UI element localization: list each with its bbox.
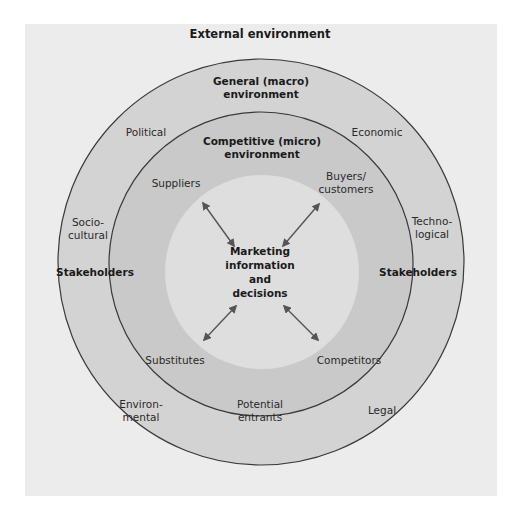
force-buyers-customers: Buyers/ customers	[319, 170, 374, 196]
force-economic: Economic	[352, 126, 403, 139]
micro-environment-title: Competitive (micro) environment	[203, 135, 321, 161]
stakeholders-left: Stakeholders	[56, 266, 134, 279]
stakeholders-right: Stakeholders	[379, 266, 457, 279]
force-competitors: Competitors	[317, 354, 381, 367]
force-suppliers: Suppliers	[152, 177, 201, 190]
force-technological: Techno- logical	[412, 215, 453, 241]
core-marketing-decisions: Marketing information and decisions	[225, 244, 294, 300]
force-potential-entrants: Potential entrants	[237, 398, 283, 424]
external-environment-title: External environment	[190, 28, 331, 41]
macro-environment-title: General (macro) environment	[213, 75, 309, 101]
force-political: Political	[126, 126, 166, 139]
force-environmental: Environ- mental	[119, 398, 162, 424]
force-substitutes: Substitutes	[145, 354, 204, 367]
force-legal: Legal	[368, 404, 396, 417]
force-socio-cultural: Socio- cultural	[68, 216, 108, 242]
